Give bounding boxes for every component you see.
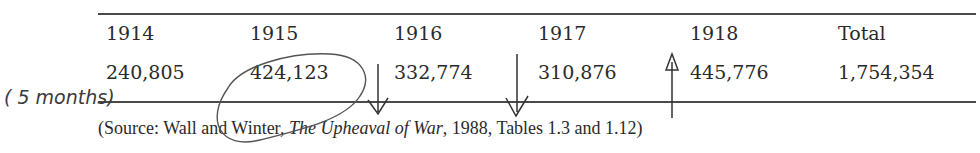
table-bottom-rule [98,101,976,103]
value-cell: 1,754,354 [838,61,935,83]
table-header-row: 1914 1915 1916 1917 1918 Total [98,22,976,52]
source-prefix: (Source: Wall and Winter, [98,118,289,138]
value-cell: 240,805 [106,61,185,83]
table-row: 240,805 424,123 332,774 310,876 445,776 … [98,61,976,91]
value-cell: 310,876 [538,61,617,83]
source-suffix: , 1988, Tables 1.3 and 1.12) [443,118,643,138]
source-book-title: The Upheaval of War [289,118,443,138]
header-cell: Total [838,22,886,44]
header-cell: 1915 [250,22,298,44]
handwritten-note: ( 5 months) [4,86,115,108]
source-citation: (Source: Wall and Winter, The Upheaval o… [98,118,643,139]
header-cell: 1917 [538,22,586,44]
header-cell: 1914 [106,22,154,44]
value-cell: 424,123 [250,61,329,83]
value-cell: 332,774 [394,61,473,83]
header-cell: 1918 [690,22,738,44]
header-cell: 1916 [394,22,442,44]
table-top-rule [98,13,976,15]
value-cell: 445,776 [690,61,769,83]
